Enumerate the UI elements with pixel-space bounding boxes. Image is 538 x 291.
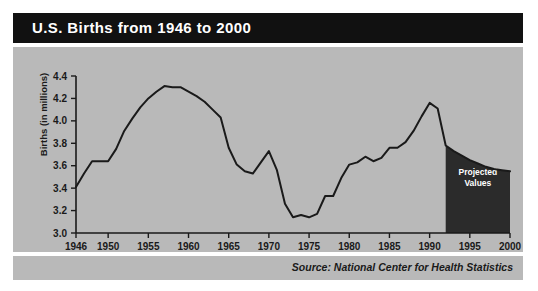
y-tick-label: 3.2 — [53, 205, 67, 216]
x-tick-label: 1950 — [97, 241, 120, 252]
y-tick-label: 3.6 — [53, 160, 67, 171]
y-tick-label: 4.4 — [53, 71, 67, 82]
chart-figure: U.S. Births from 1946 to 2000 Births (in… — [0, 0, 538, 291]
x-tick-label: 1975 — [298, 241, 321, 252]
y-tick-label: 3.4 — [53, 183, 67, 194]
x-tick-label: 1990 — [419, 241, 442, 252]
x-tick-label: 1985 — [378, 241, 401, 252]
projected-values-area — [446, 146, 510, 233]
births-series-line — [76, 86, 510, 217]
y-tick-label: 4.2 — [53, 93, 67, 104]
x-tick-label: 1995 — [459, 241, 482, 252]
x-tick-label: 1955 — [137, 241, 160, 252]
x-tick-label: 1946 — [65, 241, 88, 252]
x-tick-label: 1970 — [258, 241, 281, 252]
x-tick-label: 1980 — [338, 241, 361, 252]
title-band: U.S. Births from 1946 to 2000 — [13, 13, 523, 43]
y-tick-label: 3.0 — [53, 228, 67, 239]
chart-panel: Births (in millions) ProjectedValues4.44… — [13, 47, 523, 252]
chart-plot: ProjectedValues4.44.24.03.83.63.43.23.01… — [13, 47, 523, 252]
x-tick-label: 1960 — [177, 241, 200, 252]
source-note: Source: National Center for Health Stati… — [292, 261, 513, 273]
page-title: U.S. Births from 1946 to 2000 — [32, 19, 251, 36]
y-tick-label: 4.0 — [53, 115, 67, 126]
y-tick-label: 3.8 — [53, 138, 67, 149]
x-tick-label: 1965 — [218, 241, 241, 252]
footer-panel: Source: National Center for Health Stati… — [13, 256, 523, 280]
x-tick-label: 2000 — [499, 241, 522, 252]
projected-values-label: Values — [464, 178, 491, 188]
